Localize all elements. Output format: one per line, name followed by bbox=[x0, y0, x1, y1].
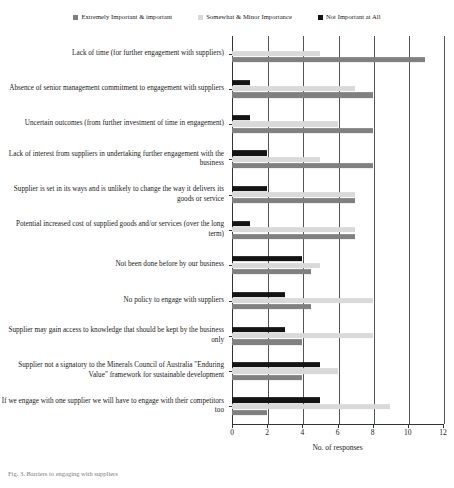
bar-segment bbox=[232, 80, 250, 85]
bar-segment bbox=[232, 362, 320, 367]
bar-group bbox=[232, 292, 443, 310]
bar-group bbox=[232, 80, 443, 98]
bar-segment bbox=[232, 115, 250, 120]
legend-item: Extremely Important & important bbox=[73, 14, 172, 21]
bar-chart: Extremely Important & importantSomewhat … bbox=[0, 0, 454, 488]
bar-row: Supplier may gain access to knowledge th… bbox=[0, 318, 454, 353]
category-label: Potential increased cost of supplied goo… bbox=[0, 220, 228, 239]
category-label: No policy to engage with suppliers bbox=[0, 296, 228, 306]
x-axis-tick-label: 10 bbox=[404, 429, 412, 437]
bar-group bbox=[232, 327, 443, 345]
legend-swatch-icon bbox=[198, 15, 203, 20]
row-bars bbox=[232, 142, 443, 177]
bar-segment bbox=[232, 186, 267, 191]
legend-swatch-icon bbox=[73, 15, 78, 20]
x-axis-tick-label: 8 bbox=[371, 429, 375, 437]
bar-row: Supplier is set in its ways and is unlik… bbox=[0, 177, 454, 212]
x-axis-tick bbox=[267, 424, 268, 428]
category-label: Supplier not a signatory to the Minerals… bbox=[0, 361, 228, 380]
row-bars bbox=[232, 248, 443, 283]
bar-segment bbox=[232, 192, 355, 197]
bar-row: Potential increased cost of supplied goo… bbox=[0, 212, 454, 247]
bar-segment bbox=[232, 57, 425, 62]
bar-segment bbox=[232, 221, 250, 226]
chart-legend: Extremely Important & importantSomewhat … bbox=[0, 14, 454, 21]
bar-segment bbox=[232, 157, 320, 162]
bar-segment bbox=[232, 263, 320, 268]
bar-segment bbox=[232, 304, 311, 309]
bar-segment bbox=[232, 198, 355, 203]
row-bars bbox=[232, 353, 443, 388]
x-axis-tick bbox=[443, 424, 444, 428]
bar-rows: Lack of time (for further engagement wit… bbox=[0, 36, 454, 424]
bar-segment bbox=[232, 227, 355, 232]
x-axis-label: No. of responses bbox=[232, 444, 443, 452]
bar-segment bbox=[232, 368, 338, 373]
x-axis-tick-label: 0 bbox=[230, 429, 234, 437]
bar-segment bbox=[232, 375, 302, 380]
x-axis-tick-labels: 024681012 bbox=[232, 429, 443, 441]
category-label: Absence of senior management commitment … bbox=[0, 84, 228, 94]
bar-row: Absence of senior management commitment … bbox=[0, 71, 454, 106]
legend-swatch-icon bbox=[318, 15, 323, 20]
bar-group bbox=[232, 151, 443, 169]
category-label: Lack of time (for further engagement wit… bbox=[0, 49, 228, 59]
bar-segment bbox=[232, 292, 285, 297]
bar-segment bbox=[232, 256, 302, 261]
bar-group bbox=[232, 256, 443, 274]
bar-row: No policy to engage with suppliers bbox=[0, 283, 454, 318]
bar-segment bbox=[232, 397, 320, 402]
row-bars bbox=[232, 107, 443, 142]
bar-segment bbox=[232, 128, 373, 133]
bar-segment bbox=[232, 234, 355, 239]
category-label: Supplier may gain access to knowledge th… bbox=[0, 326, 228, 345]
bar-row: Not been done before by our business bbox=[0, 248, 454, 283]
row-bars bbox=[232, 36, 443, 71]
bar-group bbox=[232, 45, 443, 63]
bar-segment bbox=[232, 269, 311, 274]
row-bars bbox=[232, 177, 443, 212]
row-bars bbox=[232, 283, 443, 318]
category-label: Not been done before by our business bbox=[0, 260, 228, 270]
bar-row: Lack of interest from suppliers in under… bbox=[0, 142, 454, 177]
bar-segment bbox=[232, 151, 267, 156]
bar-row: Uncertain outcomes (from further investm… bbox=[0, 107, 454, 142]
x-axis-tick bbox=[302, 424, 303, 428]
x-axis-tick-label: 6 bbox=[336, 429, 340, 437]
x-axis-tick bbox=[373, 424, 374, 428]
x-axis-tick bbox=[338, 424, 339, 428]
bar-group bbox=[232, 186, 443, 204]
row-bars bbox=[232, 318, 443, 353]
legend-item: Not Important at All bbox=[318, 14, 381, 21]
bar-segment bbox=[232, 404, 390, 409]
bar-group bbox=[232, 115, 443, 133]
bar-group bbox=[232, 362, 443, 380]
category-label: Lack of interest from suppliers in under… bbox=[0, 150, 228, 169]
x-axis-tick bbox=[408, 424, 409, 428]
x-axis-tick-label: 2 bbox=[265, 429, 269, 437]
bar-group bbox=[232, 397, 443, 415]
legend-item: Somewhat & Minor Importance bbox=[198, 14, 292, 21]
category-label: Supplier is set in its ways and is unlik… bbox=[0, 185, 228, 204]
x-axis-tick-label: 4 bbox=[300, 429, 304, 437]
bar-segment bbox=[232, 410, 267, 415]
legend-item-label: Not Important at All bbox=[326, 14, 381, 21]
legend-item-label: Extremely Important & important bbox=[81, 14, 172, 21]
bar-segment bbox=[232, 122, 338, 127]
bar-segment bbox=[232, 93, 373, 98]
bar-segment bbox=[232, 51, 320, 56]
bar-segment bbox=[232, 163, 373, 168]
bar-segment bbox=[232, 333, 373, 338]
bar-group bbox=[232, 221, 443, 239]
bar-row: If we engage with one supplier we will h… bbox=[0, 389, 454, 424]
category-label: Uncertain outcomes (from further investm… bbox=[0, 119, 228, 129]
bar-row: Supplier not a signatory to the Minerals… bbox=[0, 353, 454, 388]
x-axis-tick-label: 12 bbox=[439, 429, 447, 437]
row-bars bbox=[232, 71, 443, 106]
figure-caption: Fig. 3. Barriers to engaging with suppli… bbox=[8, 470, 248, 478]
bar-segment bbox=[232, 86, 355, 91]
bar-segment bbox=[232, 327, 285, 332]
bar-segment bbox=[232, 339, 302, 344]
row-bars bbox=[232, 212, 443, 247]
legend-item-label: Somewhat & Minor Importance bbox=[206, 14, 292, 21]
